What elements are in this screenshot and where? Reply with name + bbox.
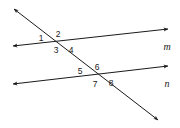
geometry-diagram: 1 2 3 4 5 6 7 8 m n bbox=[0, 0, 180, 128]
line-label-n: n bbox=[165, 79, 170, 89]
angle-label-7: 7 bbox=[93, 80, 98, 89]
angle-label-4: 4 bbox=[69, 46, 74, 55]
transversal-line bbox=[14, 9, 158, 120]
line-label-m: m bbox=[163, 42, 170, 52]
angle-label-6: 6 bbox=[95, 63, 100, 72]
angle-label-8: 8 bbox=[109, 79, 114, 88]
angle-label-5: 5 bbox=[78, 67, 83, 76]
line-m bbox=[13, 29, 168, 46]
line-n bbox=[13, 66, 168, 84]
geometry-canvas bbox=[0, 0, 180, 128]
angle-label-2: 2 bbox=[56, 30, 61, 39]
angle-label-3: 3 bbox=[54, 46, 59, 55]
angle-label-1: 1 bbox=[39, 34, 44, 43]
